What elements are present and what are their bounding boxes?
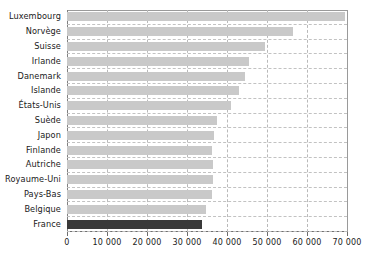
category-label-danemark: Danemark: [0, 72, 61, 81]
gridline-vertical-70000: [347, 10, 348, 232]
x-tick: [147, 232, 148, 236]
value-axis: 010 00020 00030 00040 00050 00060 00070 …: [67, 232, 347, 262]
gridline-horizontal: [67, 142, 347, 143]
x-tick-label-20000: 20 000: [132, 238, 161, 247]
category-axis-labels: LuxembourgNorvègeSuisseIrlandeDanemarkIs…: [0, 10, 64, 232]
category-label-royaume-uni: Royaume-Uni: [0, 175, 61, 184]
category-label-luxembourg: Luxembourg: [0, 12, 61, 21]
bar-finlande: [67, 146, 212, 155]
category-label-japon: Japon: [0, 131, 61, 140]
category-label-france: France: [0, 220, 61, 229]
category-label-pays-bas: Pays-Bas: [0, 190, 61, 199]
x-tick: [107, 232, 108, 236]
x-tick-label-50000: 50 000: [252, 238, 281, 247]
bar-irlande: [67, 57, 249, 66]
gridline-horizontal: [67, 187, 347, 188]
gridline-vertical-60000: [307, 10, 308, 232]
category-label-norv-ge: Norvège: [0, 27, 61, 36]
gridline-vertical-50000: [267, 10, 268, 232]
category-label--tats-unis: États-Unis: [0, 101, 61, 110]
bar-japon: [67, 131, 214, 140]
plot-area: [67, 10, 347, 232]
x-tick: [187, 232, 188, 236]
x-tick: [227, 232, 228, 236]
x-tick: [307, 232, 308, 236]
x-tick-label-30000: 30 000: [172, 238, 201, 247]
gridline-horizontal: [67, 39, 347, 40]
category-label-belgique: Belgique: [0, 205, 61, 214]
gridline-horizontal: [67, 24, 347, 25]
x-tick-label-10000: 10 000: [92, 238, 121, 247]
gridline-horizontal: [67, 157, 347, 158]
x-tick: [267, 232, 268, 236]
bar-danemark: [67, 72, 245, 81]
x-tick-label-0: 0: [64, 238, 69, 247]
gridline-horizontal: [67, 68, 347, 69]
category-label-autriche: Autriche: [0, 160, 61, 169]
category-label-su-de: Suède: [0, 116, 61, 125]
bar--tats-unis: [67, 101, 231, 110]
gridline-horizontal: [67, 113, 347, 114]
gridline-horizontal: [67, 83, 347, 84]
bar-france: [67, 220, 202, 229]
x-tick-label-40000: 40 000: [212, 238, 241, 247]
bar-luxembourg: [67, 12, 345, 21]
gridline-horizontal: [67, 53, 347, 54]
gridline-horizontal: [67, 201, 347, 202]
category-label-irlande: Irlande: [0, 57, 61, 66]
category-label-finlande: Finlande: [0, 146, 61, 155]
x-tick-label-70000: 70 000: [332, 238, 361, 247]
x-tick: [67, 232, 68, 236]
gridline-horizontal: [67, 216, 347, 217]
bar-chart: LuxembourgNorvègeSuisseIrlandeDanemarkIs…: [0, 0, 379, 270]
bar-islande: [67, 86, 239, 95]
gridline-horizontal: [67, 127, 347, 128]
bar-suisse: [67, 42, 265, 51]
gridline-horizontal: [67, 98, 347, 99]
bar-autriche: [67, 160, 213, 169]
bar-royaume-uni: [67, 175, 213, 184]
bar-belgique: [67, 205, 206, 214]
category-label-suisse: Suisse: [0, 42, 61, 51]
category-label-islande: Islande: [0, 86, 61, 95]
bar-pays-bas: [67, 190, 212, 199]
plot-top-border: [67, 10, 347, 11]
bar-norv-ge: [67, 27, 293, 36]
gridline-horizontal: [67, 172, 347, 173]
bar-su-de: [67, 116, 217, 125]
x-tick-label-60000: 60 000: [292, 238, 321, 247]
x-tick: [347, 232, 348, 236]
